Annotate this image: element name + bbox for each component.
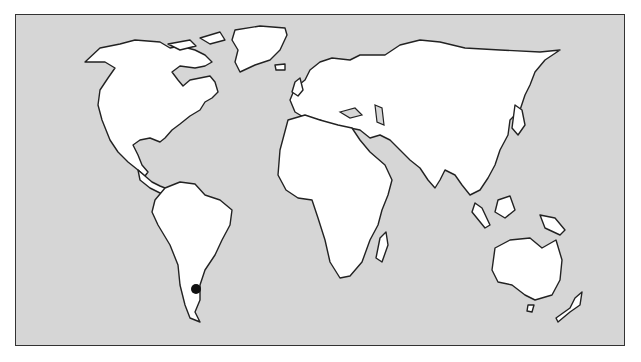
new-guinea bbox=[540, 215, 565, 235]
new-zealand bbox=[556, 292, 582, 322]
location-marker-icon bbox=[191, 284, 201, 294]
borneo bbox=[495, 196, 515, 218]
iceland bbox=[275, 64, 285, 70]
world-map bbox=[0, 0, 641, 362]
africa bbox=[278, 115, 392, 278]
north-america bbox=[85, 40, 218, 176]
australia bbox=[492, 238, 562, 300]
tasmania bbox=[527, 305, 534, 312]
madagascar bbox=[376, 232, 388, 262]
japan bbox=[512, 105, 525, 135]
sumatra bbox=[472, 203, 490, 228]
arctic-island-2 bbox=[200, 32, 225, 44]
south-america bbox=[152, 182, 232, 322]
